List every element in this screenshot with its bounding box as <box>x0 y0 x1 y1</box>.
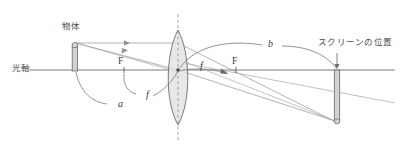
ray-direction-arrow-lower <box>122 48 128 54</box>
object-body <box>72 45 77 72</box>
ray-parallel-refracted <box>178 43 338 123</box>
focal-length-right-label: f <box>200 61 203 71</box>
ray-direction-arrow-upper <box>124 40 130 46</box>
leader-curve-focal-left <box>124 74 136 94</box>
optical-axis-label: 光軸 <box>12 64 31 73</box>
screen-position-label: スクリーンの位置 <box>318 38 392 47</box>
image-tip <box>334 121 339 124</box>
object-distance-label: a <box>118 99 123 109</box>
focal-point-left-label: F <box>118 57 123 67</box>
ray-focal-incident <box>76 43 178 72</box>
leader-curve-object <box>76 72 107 104</box>
object-label: 物体 <box>62 22 81 31</box>
figure-canvas: 光軸 物体 スクリーンの位置 F F f f a b <box>0 0 408 154</box>
ray-center-continued <box>178 70 338 122</box>
image-body <box>334 70 339 122</box>
image-distance-label: b <box>268 39 273 49</box>
focal-length-left-label: f <box>146 90 149 100</box>
ray-lens-top-to-image <box>172 57 338 122</box>
object-tip <box>72 43 77 46</box>
leader-curve-image-distance-right <box>282 46 336 68</box>
focal-point-right-label: F <box>232 57 237 67</box>
